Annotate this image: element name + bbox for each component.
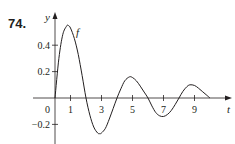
y-axis-arrow-icon [53,12,58,19]
plot-area: 13579 0.40.2−0.2 y t f 0 [0,0,235,144]
figure: 74. 13579 0.40.2−0.2 y t f 0 [0,0,235,144]
x-tick-label: 3 [99,104,104,115]
x-tick-label: 5 [130,104,135,115]
y-tick-label: −0.2 [32,119,50,130]
origin-label: 0 [45,104,50,115]
x-axis-label: t [227,103,231,115]
y-tick-label: 0.2 [38,66,51,77]
x-tick-label: 1 [68,104,73,115]
y-tick-label: 0.4 [38,40,51,51]
x-axis-arrow-icon [225,96,232,101]
x-tick-label: 7 [161,104,166,115]
curve-label: f [76,26,81,38]
y-axis-label: y [44,11,50,23]
y-ticks: 0.40.2−0.2 [32,40,58,130]
x-tick-label: 9 [192,104,197,115]
function-curve-f [55,25,210,134]
